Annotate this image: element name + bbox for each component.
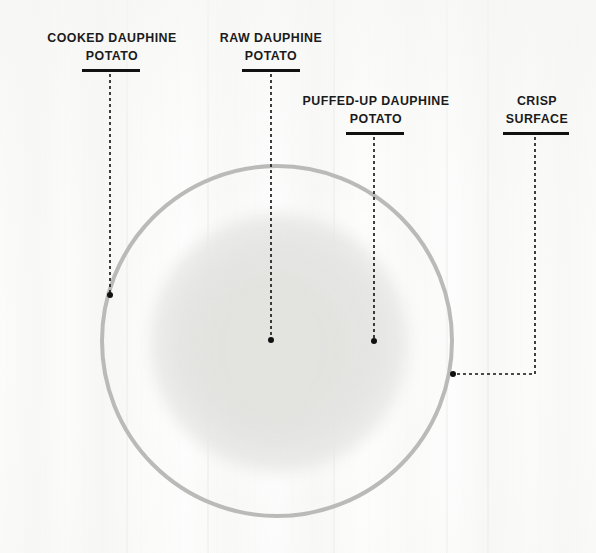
callout-dot-raw-dauphine-potato [268, 337, 274, 343]
callout-label-puffed-up-dauphine-potato: PUFFED-UP DAUPHINE POTATO [297, 93, 455, 128]
callout-dot-cooked-dauphine-potato [107, 292, 113, 298]
callout-rule-puffed-up-dauphine-potato [346, 132, 404, 135]
callout-label-cooked-dauphine-potato: COOKED DAUPHINE POTATO [38, 30, 186, 65]
callout-label-raw-dauphine-potato: RAW DAUPHINE POTATO [212, 30, 330, 65]
callout-rule-raw-dauphine-potato [242, 69, 300, 72]
callout-rule-cooked-dauphine-potato [82, 69, 140, 72]
callout-dot-crisp-surface [450, 371, 456, 377]
diagram-canvas: COOKED DAUPHINE POTATORAW DAUPHINE POTAT… [0, 0, 596, 553]
annotation-layer: COOKED DAUPHINE POTATORAW DAUPHINE POTAT… [0, 0, 596, 553]
callout-label-crisp-surface: CRISP SURFACE [494, 93, 580, 128]
callout-dot-puffed-up-dauphine-potato [371, 338, 377, 344]
callout-rule-crisp-surface [503, 132, 569, 135]
